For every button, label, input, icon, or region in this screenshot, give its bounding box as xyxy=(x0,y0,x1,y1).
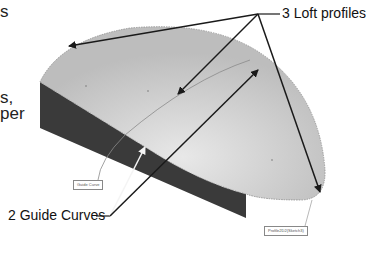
profile-tag: Profile2D2(Sketch3) xyxy=(264,226,308,236)
guide-curve-tag: Guide Curve xyxy=(73,180,103,190)
left-text-fragment: o xyxy=(0,122,9,128)
left-text-fragment: s xyxy=(0,2,9,22)
left-text-fragment: per xyxy=(0,104,25,124)
loft-profiles-callout: 3 Loft profiles xyxy=(282,5,366,21)
guide-curves-callout: 2 Guide Curves xyxy=(8,207,105,223)
